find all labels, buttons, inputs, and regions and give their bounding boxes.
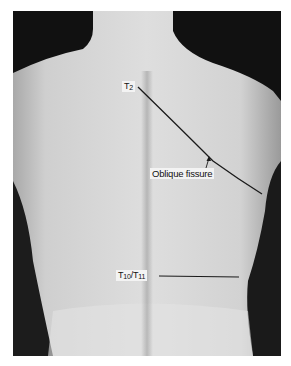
label-t2-sub: 2	[129, 84, 133, 91]
label-oblique-fissure: Oblique fissure	[150, 168, 214, 179]
label-t2: T2	[122, 81, 135, 92]
photo: T2 Oblique fissure T10/T11	[13, 11, 281, 356]
label-t10-sub: 10	[123, 273, 130, 280]
label-t11-sub: 11	[138, 273, 145, 280]
label-t10-t11: T10/T11	[116, 270, 147, 281]
back-figure	[13, 11, 281, 356]
